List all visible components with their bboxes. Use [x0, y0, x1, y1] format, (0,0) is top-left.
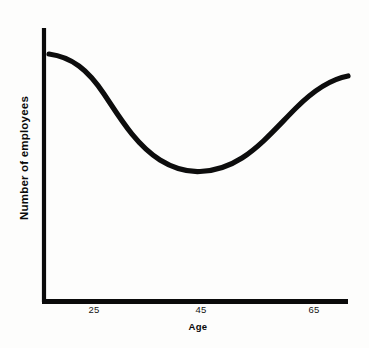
- x-axis-title: Age: [189, 321, 208, 332]
- y-axis-title: Number of employees: [18, 96, 30, 220]
- employee-count-curve: [49, 54, 348, 172]
- chart-figure: 25 45 65 Age Number of employees: [0, 0, 369, 348]
- line-chart-canvas: 25 45 65 Age Number of employees: [0, 0, 369, 348]
- x-tick-label-45: 45: [196, 304, 207, 315]
- x-tick-label-25: 25: [89, 304, 100, 315]
- x-tick-label-65: 65: [309, 304, 320, 315]
